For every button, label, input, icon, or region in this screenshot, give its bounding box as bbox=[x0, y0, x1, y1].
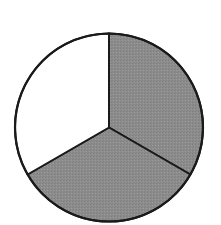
fraction-circle-diagram bbox=[0, 0, 221, 225]
